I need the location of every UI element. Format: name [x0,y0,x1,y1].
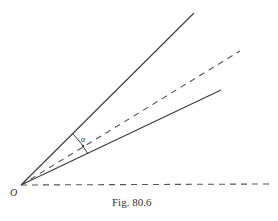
horizontal-dashed-ray [21,184,270,185]
figure-caption: Fig. 80.6 [112,196,152,208]
angle-diagram: α O Fig. 80.6 [0,0,278,221]
upper-solid-ray [21,13,194,185]
lower-solid-ray [21,90,221,185]
angle-label: α [81,135,86,144]
upper-dashed-ray [21,51,240,185]
arc-dashed-intersection [82,145,84,147]
origin-label: O [10,187,17,198]
